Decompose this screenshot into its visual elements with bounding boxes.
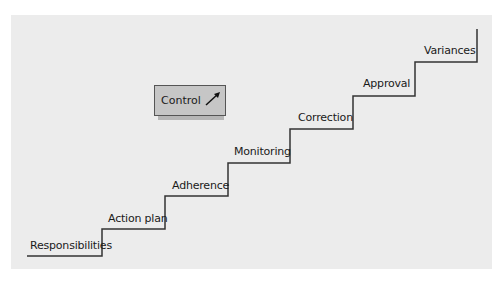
control-box: Control bbox=[154, 85, 226, 116]
step-label-responsibilities: Responsibilities bbox=[30, 239, 112, 252]
step-label-monitoring: Monitoring bbox=[234, 145, 291, 158]
control-label: Control bbox=[161, 94, 201, 107]
step-label-action-plan: Action plan bbox=[108, 212, 168, 225]
step-label-adherence: Adherence bbox=[172, 179, 229, 192]
arrow-up-right-icon bbox=[205, 91, 221, 110]
step-label-correction: Correction bbox=[298, 111, 353, 124]
step-label-approval: Approval bbox=[363, 77, 410, 90]
step-label-variances: Variances bbox=[424, 44, 475, 57]
